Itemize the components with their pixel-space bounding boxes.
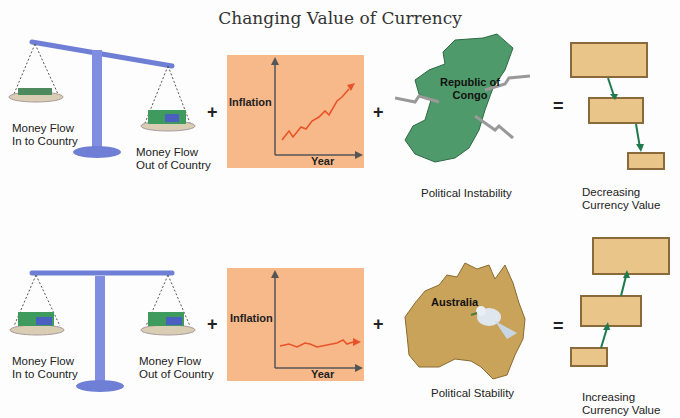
political-instability-caption: Political Instability	[421, 187, 512, 200]
currency-bill-large	[570, 42, 648, 78]
inflation-chart-rising: Inflation Year	[227, 55, 364, 168]
australia-label: Australia	[431, 296, 478, 309]
australia-map-icon	[395, 255, 530, 385]
money-out-label: Money FlowOut of Country	[139, 355, 214, 381]
equals-operator: =	[553, 96, 564, 117]
increase-arrows-icon	[595, 270, 635, 350]
money-out-label: Money FlowOut of Country	[136, 146, 211, 172]
decreasing-currency-caption: DecreasingCurrency Value	[582, 186, 660, 212]
diagram-title: Changing Value of Currency	[0, 8, 680, 28]
currency-bill-small	[570, 347, 608, 367]
plus-operator: +	[207, 102, 218, 123]
decrease-arrows-icon	[600, 78, 650, 154]
money-in-label: Money FlowIn to Country	[12, 122, 78, 148]
plus-operator: +	[373, 102, 384, 123]
money-in-label: Money FlowIn to Country	[12, 355, 78, 381]
currency-bill-small	[627, 152, 665, 170]
plus-operator: +	[207, 314, 218, 335]
plus-operator: +	[373, 314, 384, 335]
inflation-chart-flat: Inflation Year	[227, 268, 364, 381]
congo-label: Republic ofCongo	[440, 76, 500, 102]
increasing-currency-caption: IncreasingCurrency Value	[582, 391, 660, 417]
political-stability-caption: Political Stability	[431, 387, 514, 400]
equals-operator: =	[553, 316, 564, 337]
